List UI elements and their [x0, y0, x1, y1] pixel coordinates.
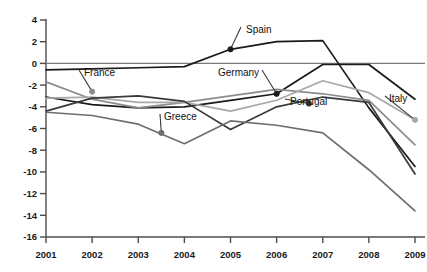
- y-axis-tick-label: -10: [23, 166, 37, 177]
- x-axis-tick-label: 2003: [128, 249, 149, 260]
- x-axis-tick-label: 2006: [266, 249, 287, 260]
- annotation-marker-italy: [412, 117, 417, 122]
- series-label-france: France: [84, 67, 116, 78]
- series-label-portugal: Portugal: [290, 96, 327, 107]
- x-axis-tick-label: 2004: [174, 249, 196, 260]
- chart-container: 420-2-4-6-8-10-12-14-16 2001200220032004…: [0, 0, 427, 272]
- y-axis-tick-label: -14: [23, 210, 37, 221]
- x-axis-tick-label: 2007: [312, 249, 333, 260]
- x-axis-tick-label: 2005: [220, 249, 242, 260]
- y-axis-tick-label: -16: [23, 231, 37, 242]
- annotation-marker-germany: [274, 91, 279, 96]
- series-label-germany: Germany: [218, 67, 259, 78]
- x-axis-tick-label: 2002: [82, 249, 103, 260]
- line-chart: 420-2-4-6-8-10-12-14-16 2001200220032004…: [0, 0, 427, 272]
- y-axis-tick-label: -4: [29, 101, 38, 112]
- x-axis-tick-label: 2009: [404, 249, 425, 260]
- x-axis-tick-label: 2001: [35, 249, 57, 260]
- series-label-spain: Spain: [246, 24, 272, 35]
- x-axis-tick-label: 2008: [358, 249, 379, 260]
- series-label-greece: Greece: [164, 111, 197, 122]
- y-axis-tick-label: -6: [29, 123, 37, 134]
- chart-background: [0, 0, 427, 272]
- series-label-italy: Italy: [389, 93, 407, 104]
- y-axis-tick-label: 4: [32, 14, 38, 25]
- annotation-marker-spain: [228, 47, 233, 52]
- y-axis-tick-label: -12: [23, 188, 37, 199]
- y-axis-tick-label: 0: [32, 58, 37, 69]
- y-axis-tick-label: -8: [29, 145, 37, 156]
- y-axis-tick-label: 2: [32, 36, 37, 47]
- annotation-marker-greece: [159, 130, 164, 135]
- y-axis-tick-label: -2: [29, 80, 37, 91]
- annotation-marker-france: [90, 89, 95, 94]
